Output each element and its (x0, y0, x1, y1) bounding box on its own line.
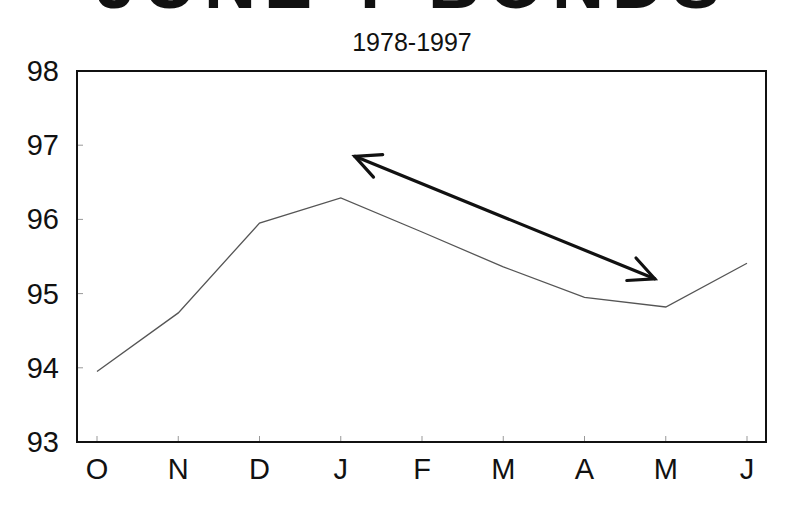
x-tick-label: O (86, 453, 109, 485)
x-tick-label: A (575, 453, 595, 485)
y-tick-label: 93 (27, 426, 59, 458)
chart-title: JUNE T-BONDS (96, 0, 728, 23)
plot-frame (77, 71, 766, 442)
y-tick-label: 94 (27, 352, 59, 384)
chart-subtitle: 1978-1997 (352, 28, 472, 56)
x-tick-label: N (168, 453, 189, 485)
x-tick-label: F (413, 453, 431, 485)
x-axis: ONDJFMAMJ (86, 436, 755, 485)
x-tick-label: D (249, 453, 270, 485)
y-tick-label: 96 (27, 203, 59, 235)
seasonal-line-chart: JUNE T-BONDS 1978-1997 939495969798 ONDJ… (0, 0, 791, 509)
arrow-shaft (355, 156, 655, 278)
y-tick-label: 98 (27, 55, 59, 87)
y-tick-label: 95 (27, 278, 59, 310)
x-tick-label: M (491, 453, 515, 485)
series-line (97, 198, 747, 372)
y-axis: 939495969798 (27, 55, 83, 458)
x-tick-label: M (654, 453, 678, 485)
y-tick-label: 97 (27, 129, 59, 161)
double-arrow-annotation (355, 155, 655, 281)
x-tick-label: J (740, 453, 755, 485)
x-tick-label: J (334, 453, 349, 485)
